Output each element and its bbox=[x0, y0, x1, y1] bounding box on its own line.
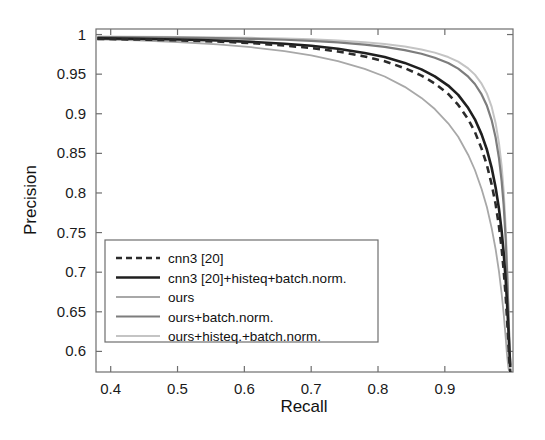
legend-label-2: ours bbox=[168, 290, 195, 305]
legend-label-0: cnn3 [20] bbox=[168, 251, 224, 266]
legend-label-4: ours+histeq.+batch.norm. bbox=[168, 329, 321, 344]
y-tick-label: 0.7 bbox=[65, 263, 86, 280]
chart-canvas: 0.40.50.60.70.80.9 0.60.650.70.750.80.85… bbox=[0, 0, 545, 440]
y-tick-label: 0.9 bbox=[65, 105, 86, 122]
precision-recall-chart: 0.40.50.60.70.80.9 0.60.650.70.750.80.85… bbox=[0, 0, 545, 440]
y-axis-title: Precision bbox=[21, 165, 40, 235]
y-tick-label: 1 bbox=[78, 26, 86, 43]
x-tick-label: 0.5 bbox=[167, 380, 188, 397]
y-tick-label: 0.85 bbox=[57, 144, 86, 161]
y-tick-label: 0.8 bbox=[65, 184, 86, 201]
legend-box bbox=[105, 240, 378, 342]
y-tick-label: 0.75 bbox=[57, 224, 86, 241]
x-tick-label: 0.9 bbox=[434, 380, 455, 397]
x-tick-label: 0.8 bbox=[368, 380, 389, 397]
x-tick-label: 0.6 bbox=[234, 380, 255, 397]
x-tick-label: 0.7 bbox=[301, 380, 322, 397]
y-tick-label: 0.95 bbox=[57, 65, 86, 82]
legend-label-3: ours+batch.norm. bbox=[168, 310, 273, 325]
x-tick-label: 0.4 bbox=[100, 380, 121, 397]
legend: cnn3 [20]cnn3 [20]+histeq+batch.norm.our… bbox=[105, 240, 378, 344]
x-axis-title: Recall bbox=[280, 397, 327, 416]
legend-label-1: cnn3 [20]+histeq+batch.norm. bbox=[168, 271, 347, 286]
y-tick-label: 0.6 bbox=[65, 342, 86, 359]
y-tick-label: 0.65 bbox=[57, 303, 86, 320]
